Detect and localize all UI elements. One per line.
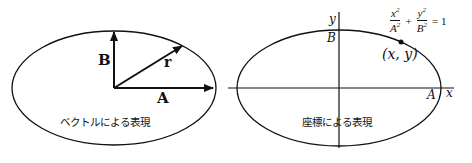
label-r: r (164, 55, 171, 69)
axis-y-label: y (329, 13, 336, 25)
point-marker (399, 40, 404, 45)
label-A: A (157, 91, 169, 106)
point-label: (x, y) (382, 47, 418, 61)
ellipse-equation: x2 A2 + y2 B2 = 1 (390, 7, 446, 34)
plus-sign: + (405, 15, 411, 27)
label-B: B (98, 53, 111, 68)
equals-one: = 1 (432, 15, 446, 27)
caption-coordinate: 座標による表現 (302, 117, 372, 128)
fraction-y: y2 B2 (417, 7, 427, 34)
caption-vector: ベクトルによる表現 (60, 117, 150, 128)
axis-x-label: x (446, 87, 453, 99)
label-A-coord: A (427, 89, 436, 101)
fraction-x: x2 A2 (390, 7, 400, 34)
vector-r-arrow (114, 46, 182, 88)
ellipse-diagram: B r A ベクトルによる表現 y B A x (x, y) 座標による表現 x… (0, 0, 472, 163)
label-B-coord: B (327, 32, 336, 44)
